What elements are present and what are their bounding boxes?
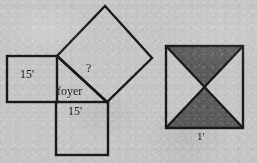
tile-triangle-bottom [166, 87, 243, 128]
shaded-tile-diagram [0, 0, 257, 163]
figure-page: 15' ? foyer 15' 1' [0, 0, 257, 163]
tile-triangle-top [166, 46, 243, 87]
tile-side-label: 1' [197, 131, 204, 142]
